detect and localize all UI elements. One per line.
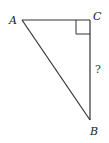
side-ab-hypotenuse: [22, 20, 90, 120]
vertex-label-a: A: [8, 14, 17, 27]
right-angle-marker: [76, 20, 90, 34]
unknown-side-label: ?: [95, 63, 101, 76]
vertex-label-b: B: [89, 125, 98, 138]
vertex-label-c: C: [93, 10, 102, 23]
triangle-diagram: A C B ?: [0, 0, 109, 143]
